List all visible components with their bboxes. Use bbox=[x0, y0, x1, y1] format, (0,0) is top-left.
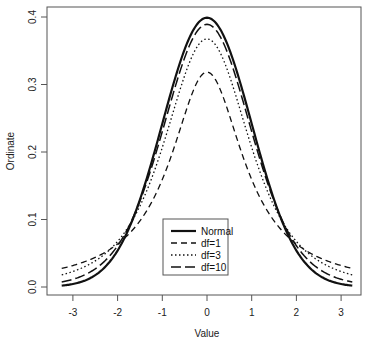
y-tick-label: 0.3 bbox=[27, 77, 38, 91]
y-axis: 0.00.10.20.30.4 bbox=[27, 10, 47, 294]
legend: Normaldf=1df=3df=10 bbox=[163, 219, 233, 275]
chart: 0.00.10.20.30.4 -3-2-10123 Ordinate Valu… bbox=[0, 0, 373, 349]
x-tick-label: 1 bbox=[249, 307, 255, 318]
x-tick-label: -1 bbox=[158, 307, 167, 318]
legend-label: df=3 bbox=[201, 250, 221, 261]
legend-label: Normal bbox=[201, 226, 233, 237]
y-tick-label: 0.4 bbox=[27, 10, 38, 24]
y-axis-title: Ordinate bbox=[5, 131, 16, 170]
x-tick-label: 0 bbox=[204, 307, 210, 318]
x-tick-label: 3 bbox=[338, 307, 344, 318]
y-tick-label: 0.2 bbox=[27, 145, 38, 159]
legend-label: df=1 bbox=[201, 238, 221, 249]
x-tick-label: -3 bbox=[68, 307, 77, 318]
x-tick-label: 2 bbox=[294, 307, 300, 318]
x-axis-title: Value bbox=[195, 328, 220, 339]
y-tick-label: 0.1 bbox=[27, 212, 38, 226]
x-axis: -3-2-10123 bbox=[68, 295, 344, 318]
y-tick-label: 0.0 bbox=[27, 280, 38, 294]
x-tick-label: -2 bbox=[113, 307, 122, 318]
legend-label: df=10 bbox=[201, 262, 227, 273]
